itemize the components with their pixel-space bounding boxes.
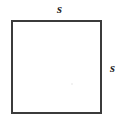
square-shape <box>11 20 102 114</box>
right-side-label: s <box>110 61 115 74</box>
top-side-label: s <box>57 2 62 15</box>
figure-root: s s <box>0 0 125 122</box>
interior-speck <box>71 83 73 85</box>
